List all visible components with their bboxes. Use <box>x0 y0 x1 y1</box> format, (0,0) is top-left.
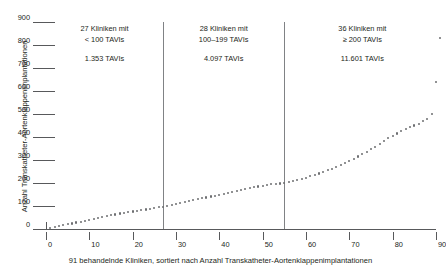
data-point <box>296 179 298 181</box>
y-tick-label-400: 400 <box>0 128 30 137</box>
data-point <box>413 124 415 126</box>
data-point <box>400 130 402 132</box>
annotation-spacer <box>169 45 279 54</box>
data-point <box>106 215 108 217</box>
data-point <box>205 196 207 198</box>
data-point <box>392 135 394 137</box>
data-point <box>366 151 368 153</box>
annotation-group-2-line3: 4.097 TAVIs <box>169 54 279 65</box>
annotation-group-3-line1: 36 Kliniken mit <box>307 24 417 35</box>
group-divider-1 <box>163 22 164 229</box>
data-point <box>266 184 268 186</box>
data-point <box>301 178 303 180</box>
data-point <box>119 212 121 214</box>
data-point <box>405 128 407 130</box>
y-tick-label-800: 800 <box>0 36 30 45</box>
data-point <box>396 132 398 134</box>
y-tick-label-300: 300 <box>0 151 30 160</box>
data-point <box>379 143 381 145</box>
data-point <box>314 174 316 176</box>
data-point <box>431 113 433 115</box>
y-tick-200 <box>33 183 55 184</box>
data-point <box>357 155 359 157</box>
data-point <box>67 223 69 225</box>
x-axis-line <box>46 229 436 230</box>
y-tick-600 <box>33 91 55 92</box>
data-point <box>374 146 376 148</box>
x-axis-title: 91 behandelnde Kliniken, sortiert nach A… <box>0 256 441 265</box>
data-point <box>331 168 333 170</box>
data-point <box>418 123 420 125</box>
data-point <box>127 211 129 213</box>
y-axis-title: Anzahl Transkatheter-Aortenklappenimplan… <box>20 29 29 225</box>
data-point <box>210 195 212 197</box>
data-point <box>62 224 64 226</box>
x-tick-label-0: 0 <box>48 240 52 249</box>
y-tick-label-700: 700 <box>0 59 30 68</box>
y-tick-label-900: 900 <box>0 13 30 22</box>
data-point <box>383 140 385 142</box>
data-point <box>179 202 181 204</box>
annotation-spacer <box>50 45 160 54</box>
x-tick-0 <box>46 232 47 240</box>
data-point <box>335 166 337 168</box>
data-point <box>214 195 216 197</box>
data-point <box>132 210 134 212</box>
data-point <box>305 177 307 179</box>
data-point <box>257 185 259 187</box>
x-tick-50 <box>263 232 264 240</box>
y-tick-label-100: 100 <box>0 197 30 206</box>
data-point <box>192 199 194 201</box>
x-tick-label-40: 40 <box>221 240 229 249</box>
x-tick-80 <box>393 232 394 240</box>
y-tick-label-200: 200 <box>0 174 30 183</box>
data-point <box>288 181 290 183</box>
y-tick-500 <box>33 114 55 115</box>
data-point <box>240 189 242 191</box>
data-point <box>80 221 82 223</box>
data-point <box>309 175 311 177</box>
annotation-group-1-line3: 1.353 TAVIs <box>50 54 160 65</box>
x-tick-label-80: 80 <box>395 240 403 249</box>
x-tick-label-90: 90 <box>438 240 446 249</box>
data-point <box>422 120 424 122</box>
data-point <box>322 171 324 173</box>
annotation-group-3-line2: ≥ 200 TAVIs <box>307 35 417 46</box>
data-point <box>75 221 77 223</box>
annotation-spacer <box>307 45 417 54</box>
group-divider-2 <box>284 22 285 229</box>
data-point <box>171 204 173 206</box>
x-tick-40 <box>219 232 220 240</box>
data-point <box>88 219 90 221</box>
data-point <box>227 192 229 194</box>
data-point <box>327 169 329 171</box>
data-point <box>340 164 342 166</box>
data-point <box>197 198 199 200</box>
data-point <box>97 217 99 219</box>
data-point <box>101 216 103 218</box>
x-tick-label-30: 30 <box>178 240 186 249</box>
y-tick-100 <box>33 206 55 207</box>
x-tick-10 <box>89 232 90 240</box>
data-point <box>153 207 155 209</box>
y-tick-label-0: 0 <box>0 220 30 229</box>
y-tick-0 <box>33 229 46 230</box>
annotation-group-2-line2: 100–199 TAVIs <box>169 35 279 46</box>
y-tick-400 <box>33 137 55 138</box>
x-tick-90 <box>436 232 437 240</box>
data-point <box>249 187 251 189</box>
y-tick-label-500: 500 <box>0 105 30 114</box>
data-point <box>58 225 60 227</box>
data-point <box>114 213 116 215</box>
data-point <box>387 137 389 139</box>
data-point <box>262 185 264 187</box>
data-point <box>162 206 164 208</box>
data-point <box>123 212 125 214</box>
data-point <box>54 226 56 228</box>
y-tick-900 <box>33 22 55 23</box>
data-point <box>166 205 168 207</box>
data-point <box>292 180 294 182</box>
data-point <box>136 210 138 212</box>
data-point <box>110 214 112 216</box>
